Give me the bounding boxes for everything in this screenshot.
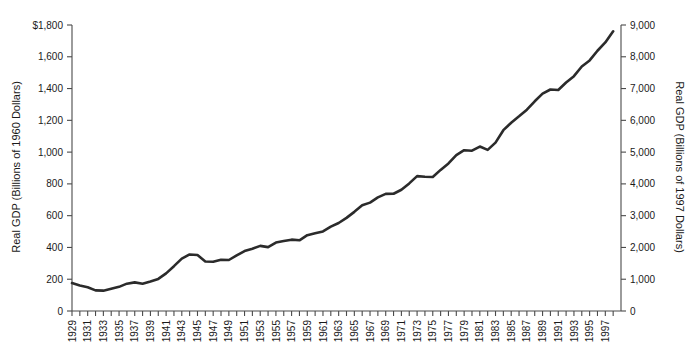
y-tick-label-right: 4,000 [630,178,655,189]
x-tick-label: 1933 [98,320,109,343]
x-tick-label: 1963 [333,320,344,343]
x-tick-label: 1959 [302,320,313,343]
x-tick-label: 1943 [176,320,187,343]
x-tick-label: 1981 [474,320,485,343]
x-tick-label: 1969 [380,320,391,343]
y-tick-label-right: 3,000 [630,210,655,221]
y-tick-label-right: 6,000 [630,115,655,126]
x-axis: 1929193119331935193719391941194319451947… [67,311,621,342]
gdp-line-chart: Real GDP (Billions of 1960 Dollars) Real… [0,0,690,355]
y-tick-label-left: 0 [57,306,63,317]
right-axis-title: Real GDP (Billions of 1997 Dollars) [674,81,686,253]
x-tick-label: 1977 [443,320,454,343]
x-tick-label: 1989 [537,320,548,343]
x-tick-label: 1929 [67,320,78,343]
y-tick-label-right: 7,000 [630,83,655,94]
x-tick-label: 1983 [490,320,501,343]
y-tick-label-left: 1,600 [38,51,63,62]
x-tick-label: 1941 [161,320,172,343]
x-tick-label: 1987 [521,320,532,343]
y-tick-label-right: 2,000 [630,242,655,253]
x-tick-label: 1931 [82,320,93,343]
y-tick-label-left: $1,800 [32,20,63,31]
x-tick-label: 1955 [271,320,282,343]
y-tick-label-right: 8,000 [630,51,655,62]
y-tick-label-left: 600 [46,210,63,221]
y-axis-left: 02004006008001,0001,2001,4001,600$1,800 [32,20,72,317]
x-tick-label: 1947 [208,320,219,343]
y-tick-label-right: 9,000 [630,20,655,31]
x-tick-label: 1951 [239,320,250,343]
right-axis-title-group: Real GDP (Billions of 1997 Dollars) [674,81,686,253]
y-tick-label-left: 1,200 [38,115,63,126]
chart-canvas: Real GDP (Billions of 1960 Dollars) Real… [0,0,690,355]
x-tick-label: 1939 [145,320,156,343]
x-tick-label: 1949 [223,320,234,343]
y-tick-label-left: 400 [46,242,63,253]
x-tick-label: 1973 [412,320,423,343]
x-tick-label: 1993 [569,320,580,343]
x-tick-label: 1975 [427,320,438,343]
x-tick-label: 1991 [553,320,564,343]
y-tick-label-left: 1,000 [38,147,63,158]
x-tick-label: 1971 [396,320,407,343]
x-tick-label: 1995 [584,320,595,343]
y-axis-right: 01,0002,0003,0004,0005,0006,0007,0008,00… [621,20,655,317]
x-tick-label: 1961 [318,320,329,343]
x-tick-label: 1953 [255,320,266,343]
x-tick-label: 1985 [506,320,517,343]
y-tick-label-left: 200 [46,274,63,285]
x-tick-label: 1979 [459,320,470,343]
plot-area [72,31,613,290]
y-tick-label-right: 5,000 [630,147,655,158]
y-tick-label-left: 1,400 [38,83,63,94]
x-tick-label: 1965 [349,320,360,343]
y-tick-label-left: 800 [46,178,63,189]
x-tick-label: 1967 [365,320,376,343]
left-axis-title: Real GDP (Billions of 1960 Dollars) [10,81,22,253]
left-axis-title-group: Real GDP (Billions of 1960 Dollars) [10,81,22,253]
x-tick-label: 1945 [192,320,203,343]
x-tick-label: 1937 [129,320,140,343]
y-tick-label-right: 0 [630,306,636,317]
x-tick-label: 1935 [114,320,125,343]
x-tick-label: 1997 [600,320,611,343]
data-series-line [72,31,613,290]
y-tick-label-right: 1,000 [630,274,655,285]
x-tick-label: 1957 [286,320,297,343]
